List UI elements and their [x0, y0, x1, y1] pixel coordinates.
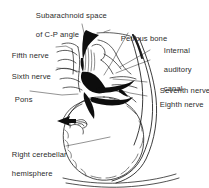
label-eighth-nerve-line1: Eighth nerve — [160, 100, 204, 109]
label-subarachnoid-space-line1: Subarachnoid space — [36, 11, 107, 20]
label-sixth-nerve-line1: Sixth nerve — [12, 72, 51, 81]
label-pons-line1: Pons — [15, 95, 33, 104]
label-iac-line2: auditory — [164, 65, 192, 74]
brainstem-outline — [56, 43, 82, 92]
leader-cerebellar — [66, 137, 110, 146]
label-pons: Pons — [6, 86, 33, 114]
nerve-striations — [85, 46, 95, 72]
cisternal-black-tail — [84, 92, 95, 119]
leader-pons — [30, 91, 78, 95]
label-cerebellar-line1: Right cerebellar — [12, 150, 67, 159]
label-iac-line1: Internal — [164, 46, 190, 55]
nerve-bundle-connector — [119, 88, 128, 97]
lower-dural-lines — [63, 174, 179, 187]
subarachnoid-wedge-tail — [81, 58, 84, 72]
label-cerebellar-line2: hemisphere — [12, 169, 53, 178]
petrous-bone-curve — [112, 36, 157, 183]
label-right-cerebellar-hemisphere: Right cerebellar hemisphere — [3, 141, 67, 188]
label-subarachnoid-space-line2: of C-P angle — [36, 30, 79, 39]
anatomical-figure: Subarachnoid space of C-P angle Petrous … — [0, 0, 209, 188]
label-fifth-nerve-line1: Fifth nerve — [12, 51, 49, 60]
label-eighth-nerve: Eighth nerve — [151, 91, 204, 119]
